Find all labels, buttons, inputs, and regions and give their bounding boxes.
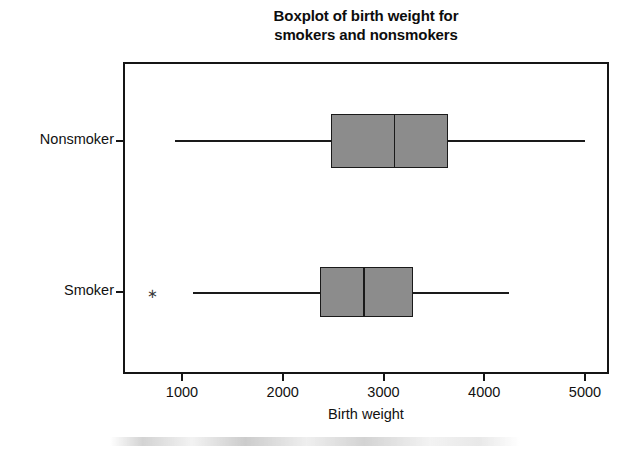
y-axis-tick-nonsmoker bbox=[116, 140, 123, 142]
outlier-marker-smoker: ∗ bbox=[147, 291, 157, 297]
x-axis-tick-3000 bbox=[383, 374, 385, 381]
x-axis-tick-1000 bbox=[181, 374, 183, 381]
x-axis-tick-5000 bbox=[584, 374, 586, 381]
x-axis-tick-4000 bbox=[483, 374, 485, 381]
chart-title-line-2: smokers and nonsmokers bbox=[123, 25, 609, 44]
x-axis-label-1000: 1000 bbox=[147, 384, 217, 400]
plot-area: ∗ bbox=[123, 62, 609, 374]
x-axis-label-5000: 5000 bbox=[550, 384, 620, 400]
x-axis-tick-2000 bbox=[282, 374, 284, 381]
scan-artifact bbox=[110, 437, 520, 446]
chart-title-line-1: Boxplot of birth weight for bbox=[123, 6, 609, 25]
chart-title: Boxplot of birth weight for smokers and … bbox=[123, 6, 609, 44]
x-axis-title: Birth weight bbox=[123, 406, 609, 422]
box-smoker bbox=[320, 267, 413, 317]
median-nonsmoker bbox=[394, 114, 396, 168]
y-axis-tick-smoker bbox=[116, 291, 123, 293]
y-axis-label-smoker: Smoker bbox=[14, 282, 114, 298]
x-axis-label-2000: 2000 bbox=[248, 384, 318, 400]
boxplot-figure: Boxplot of birth weight for smokers and … bbox=[0, 0, 628, 454]
x-axis-label-4000: 4000 bbox=[449, 384, 519, 400]
x-axis-label-3000: 3000 bbox=[349, 384, 419, 400]
box-nonsmoker bbox=[331, 114, 448, 168]
y-axis-label-nonsmoker: Nonsmoker bbox=[14, 131, 114, 147]
median-smoker bbox=[363, 267, 365, 317]
